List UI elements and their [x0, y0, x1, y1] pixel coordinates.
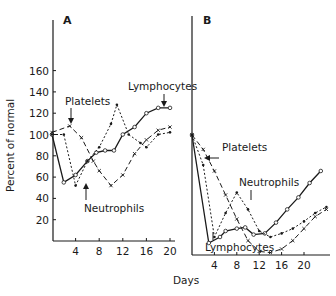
- panel-b-neutrophils-label: Neutrophils: [239, 176, 299, 188]
- data-point-marker: [98, 169, 101, 172]
- y-tick-label: 80: [36, 150, 49, 162]
- data-point-marker: [243, 226, 247, 230]
- panel-a-y-ticks: 16014012010080604020: [29, 65, 56, 226]
- data-point-marker: [51, 133, 54, 136]
- data-point-marker: [292, 227, 295, 230]
- chart-figure: A 16014012010080604020 48121620 Platelet…: [0, 0, 336, 296]
- data-point-marker: [80, 136, 83, 139]
- panel-b-lymphocytes-label: Lymphocytes: [205, 241, 274, 253]
- data-point-marker: [62, 181, 66, 185]
- arrow-down-icon: [68, 118, 74, 124]
- data-point-marker: [314, 212, 317, 215]
- y-tick-label: 140: [29, 86, 49, 98]
- data-point-marker: [218, 235, 222, 239]
- data-point-marker: [236, 191, 239, 194]
- data-point-marker: [145, 138, 148, 141]
- data-point-marker: [308, 181, 312, 185]
- data-point-marker: [168, 106, 172, 110]
- panel-a-platelets-label: Platelets: [65, 95, 110, 107]
- data-point-marker: [86, 160, 89, 163]
- y-tick-label: 160: [29, 65, 49, 77]
- y-axis-title: Percent of normal: [4, 99, 16, 192]
- data-point-marker: [169, 131, 172, 134]
- panel-b-platelets-label: Platelets: [222, 141, 267, 153]
- data-point-marker: [252, 233, 256, 237]
- data-point-marker: [157, 129, 160, 132]
- series-neutrophils: [52, 105, 170, 186]
- data-point-marker: [325, 206, 328, 209]
- x-axis-title: Days: [173, 274, 199, 286]
- data-point-marker: [235, 227, 239, 231]
- data-point-marker: [258, 230, 261, 233]
- y-tick-label: 100: [29, 129, 49, 141]
- y-tick-label: 20: [36, 214, 49, 226]
- data-point-marker: [98, 146, 101, 149]
- data-point-marker: [302, 227, 305, 230]
- data-point-marker: [235, 217, 238, 220]
- x-tick-label: 16: [275, 259, 289, 271]
- data-point-marker: [157, 133, 160, 136]
- data-point-marker: [133, 152, 136, 155]
- data-point-marker: [191, 134, 194, 137]
- x-tick-label: 12: [253, 259, 266, 271]
- data-point-marker: [145, 146, 148, 149]
- data-point-marker: [74, 173, 78, 177]
- panel-b: B 48121620 Platelets Neutrophils Lymphoc…: [190, 14, 330, 271]
- data-point-marker: [145, 111, 149, 115]
- data-point-marker: [202, 164, 205, 167]
- data-point-marker: [303, 220, 306, 223]
- x-tick-label: 16: [140, 245, 154, 257]
- data-point-marker: [109, 184, 112, 187]
- y-tick-label: 40: [36, 192, 49, 204]
- arrow-down-icon: [161, 101, 167, 107]
- series-platelets: [52, 126, 170, 186]
- data-point-marker: [202, 148, 205, 151]
- arrow-up-icon: [83, 183, 89, 189]
- data-point-marker: [139, 142, 142, 145]
- data-point-marker: [74, 184, 77, 187]
- data-point-marker: [63, 133, 66, 136]
- x-tick-label: 8: [96, 245, 103, 257]
- panel-a-series: [50, 103, 172, 187]
- data-point-marker: [103, 149, 107, 153]
- panel-a-lymphocytes-label: Lymphocytes: [128, 80, 197, 92]
- y-tick-label: 120: [29, 107, 49, 119]
- data-point-marker: [121, 173, 124, 176]
- data-point-marker: [319, 169, 323, 173]
- data-point-marker: [121, 133, 125, 137]
- x-tick-label: 4: [72, 245, 79, 257]
- data-point-marker: [280, 247, 283, 250]
- data-point-marker: [274, 221, 278, 225]
- data-point-marker: [291, 239, 294, 242]
- data-point-marker: [269, 236, 272, 239]
- data-point-marker: [112, 149, 116, 153]
- x-tick-label: 8: [233, 259, 240, 271]
- y-tick-label: 60: [36, 171, 49, 183]
- data-point-marker: [133, 125, 137, 129]
- panel-a-neutrophils-label: Neutrophils: [84, 202, 144, 214]
- data-point-marker: [156, 106, 160, 110]
- data-point-marker: [314, 215, 317, 218]
- data-point-marker: [297, 196, 301, 200]
- x-tick-label: 4: [211, 259, 218, 271]
- panel-a: A 16014012010080604020 48121620 Platelet…: [29, 14, 197, 257]
- x-tick-label: 12: [116, 245, 129, 257]
- data-point-marker: [247, 208, 250, 211]
- data-point-marker: [116, 103, 119, 106]
- panel-a-label: A: [63, 14, 72, 27]
- data-point-marker: [280, 232, 283, 235]
- data-point-marker: [110, 123, 113, 126]
- data-point-marker: [224, 229, 228, 233]
- data-point-marker: [127, 133, 130, 136]
- x-tick-label: 20: [297, 259, 310, 271]
- x-tick-label: 20: [163, 245, 176, 257]
- panel-b-label: B: [203, 14, 211, 27]
- data-point-marker: [285, 208, 289, 212]
- data-point-marker: [224, 212, 227, 215]
